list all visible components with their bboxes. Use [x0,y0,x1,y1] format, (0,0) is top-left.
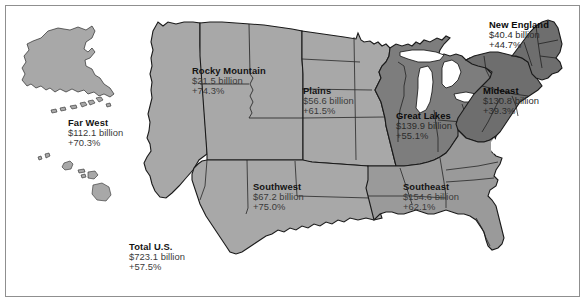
alaska-aleutian-3 [80,102,87,107]
alaska-mainland-shape [22,26,114,97]
region-shape-rocky-mountain [200,22,303,160]
alaska-aleutian-1 [96,97,103,102]
hawaii-island-kauai [45,153,50,158]
hawaii-island-molokai [78,169,85,173]
hawaii-island-maui [88,171,98,179]
region-shape-alaska [22,26,114,113]
hawaii-island-big-island [92,183,111,201]
hawaii-island-lanai [81,174,86,178]
hawaii-island-niihau [38,156,42,160]
alaska-aleutian-6 [51,109,57,113]
hawaii-island-oahu [62,161,73,170]
region-shape-hawaii [38,153,111,201]
alaska-aleutian-4 [70,105,77,109]
alaska-aleutian-2 [88,100,95,105]
us-regions-map-figure: Far West $112.1 billion +70.3% Rocky Mou… [0,0,586,303]
region-shape-southwest [192,160,382,254]
alaska-aleutian-7 [106,103,111,107]
map-graphic [0,0,586,303]
alaska-aleutian-5 [60,107,66,111]
